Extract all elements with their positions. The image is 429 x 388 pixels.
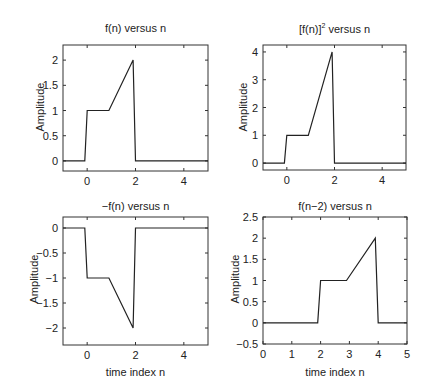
y-tick-label: 2 [252,232,258,244]
y-tick-label: 0 [252,317,258,329]
data-line [263,238,407,323]
x-tick-label: 0 [260,348,266,360]
y-tick-label: 1 [252,275,258,287]
x-tick-label: 1 [289,348,295,360]
plot-area: 012345−0.500.511.522.5 [0,0,429,388]
x-tick-label: 5 [404,348,410,360]
y-tick-label: −0.5 [236,338,258,350]
y-tick-label: 1.5 [243,253,258,265]
x-tick-label: 4 [375,348,381,360]
x-tick-label: 2 [318,348,324,360]
y-tick-label: 2.5 [243,211,258,223]
y-tick-label: 0.5 [243,296,258,308]
x-tick-label: 3 [346,348,352,360]
